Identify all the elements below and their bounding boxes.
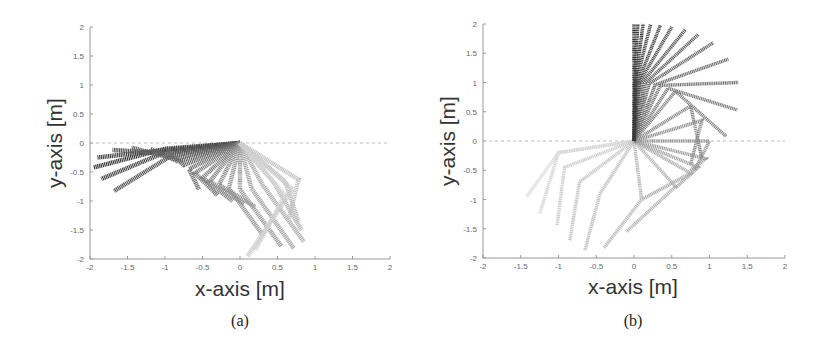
x-tick-label: -0.5 bbox=[589, 262, 603, 271]
y-tick-label: -2 bbox=[470, 254, 478, 263]
x-tick-label: 0 bbox=[238, 263, 243, 272]
x-tick-label: 1 bbox=[707, 262, 712, 271]
y-tick-label: 0 bbox=[80, 139, 85, 148]
y-tick-label: 2 bbox=[80, 23, 85, 32]
y-tick-label: -0.5 bbox=[463, 166, 477, 175]
arm-configuration bbox=[604, 141, 642, 248]
y-tick-label: 1 bbox=[80, 81, 85, 90]
x-tick-label: -1 bbox=[161, 263, 169, 272]
panel-a: -2-1.5-1-0.500.511.5221.510.50-0.5-1-1.5… bbox=[0, 0, 413, 351]
chart-a: -2-1.5-1-0.500.511.5221.510.50-0.5-1-1.5… bbox=[0, 0, 413, 351]
y-tick-label: 0 bbox=[473, 137, 478, 146]
arm-configuration bbox=[570, 141, 634, 240]
panel-b: -2-1.5-1-0.500.511.5221.510.50-0.5-1-1.5… bbox=[413, 0, 826, 351]
x-tick-label: -2 bbox=[86, 263, 94, 272]
x-tick-label: -2 bbox=[479, 262, 487, 271]
x-tick-label: -1.5 bbox=[514, 262, 528, 271]
y-tick-label: 0.5 bbox=[466, 108, 478, 117]
arm-configuration bbox=[240, 143, 304, 242]
y-tick-label: 1 bbox=[473, 79, 478, 88]
caption-b: (b) bbox=[603, 312, 663, 330]
y-tick-label: -2 bbox=[77, 255, 85, 264]
arm-configuration bbox=[557, 141, 634, 226]
caption-a: (a) bbox=[210, 312, 270, 330]
x-tick-label: 1.5 bbox=[347, 263, 359, 272]
y-tick-label: -1 bbox=[470, 196, 478, 205]
x-tick-label: 2 bbox=[783, 262, 788, 271]
x-tick-label: 2 bbox=[388, 263, 393, 272]
y-tick-label: -1 bbox=[77, 197, 85, 206]
y-axis-label: y-axis [m] bbox=[43, 98, 66, 188]
x-tick-label: 0.5 bbox=[272, 263, 284, 272]
x-tick-label: 1 bbox=[313, 263, 318, 272]
x-axis-label: x-axis [m] bbox=[588, 275, 678, 298]
x-tick-label: 0 bbox=[632, 262, 637, 271]
arm-configurations bbox=[94, 143, 304, 256]
chart-b: -2-1.5-1-0.500.511.5221.510.50-0.5-1-1.5… bbox=[413, 0, 826, 351]
arm-configuration bbox=[634, 91, 726, 141]
x-tick-label: -1 bbox=[555, 262, 563, 271]
x-axis-label: x-axis [m] bbox=[195, 277, 285, 300]
y-axis-label: y-axis [m] bbox=[436, 96, 459, 186]
y-tick-label: 0.5 bbox=[73, 110, 85, 119]
x-tick-label: 1.5 bbox=[742, 262, 754, 271]
y-tick-label: -1.5 bbox=[70, 226, 84, 235]
arm-configurations bbox=[527, 24, 738, 250]
arm-configuration bbox=[634, 59, 728, 141]
y-tick-label: 1.5 bbox=[466, 49, 478, 58]
y-tick-label: -0.5 bbox=[70, 168, 84, 177]
x-tick-label: 0.5 bbox=[666, 262, 678, 271]
x-tick-label: -0.5 bbox=[196, 263, 210, 272]
y-tick-label: 2 bbox=[473, 20, 478, 29]
y-tick-label: 1.5 bbox=[73, 52, 85, 61]
y-tick-label: -1.5 bbox=[463, 225, 477, 234]
x-tick-label: -1.5 bbox=[121, 263, 135, 272]
